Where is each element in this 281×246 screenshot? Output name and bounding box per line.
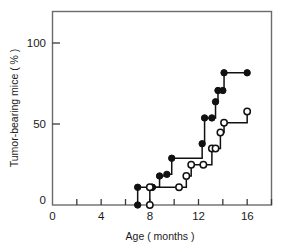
- data-point-filled-circle: [134, 202, 140, 208]
- data-point-open-circle: [188, 161, 194, 167]
- tumor-incidence-step-chart: 0 50 100 0 4 8 12 16 Age ( months ) Tumo…: [0, 0, 281, 246]
- x-tick-label-8: 8: [147, 210, 153, 222]
- y-axis-title: Tumor-bearing mice ( % ): [8, 49, 20, 168]
- y-tick-label-50: 50: [33, 118, 46, 130]
- data-point-open-circle: [183, 173, 189, 179]
- data-point-filled-circle: [134, 184, 140, 190]
- data-point-filled-circle: [156, 173, 162, 179]
- data-point-open-circle: [221, 120, 227, 126]
- data-point-filled-circle: [164, 171, 170, 177]
- data-point-filled-circle: [169, 155, 175, 161]
- data-point-filled-circle: [212, 99, 218, 105]
- data-point-open-circle: [212, 145, 218, 151]
- x-axis-title: Age ( months ): [126, 230, 195, 242]
- data-point-open-circle: [217, 129, 223, 135]
- data-point-open-circle: [176, 184, 182, 190]
- x-tick-label-0: 0: [49, 210, 55, 222]
- data-point-filled-circle: [201, 115, 207, 121]
- data-point-filled-circle: [244, 70, 250, 76]
- y-tick-label-100: 100: [27, 37, 46, 49]
- data-point-open-circle: [200, 161, 206, 167]
- x-tick-label-4: 4: [98, 210, 105, 222]
- data-point-filled-circle: [209, 115, 215, 121]
- data-point-filled-circle: [220, 87, 226, 93]
- data-point-open-circle: [147, 184, 153, 190]
- chart-figure: 0 50 100 0 4 8 12 16 Age ( months ) Tumo…: [0, 0, 281, 246]
- data-point-open-circle: [244, 108, 250, 114]
- data-point-filled-circle: [199, 141, 205, 147]
- data-point-open-circle: [147, 202, 153, 208]
- x-tick-label-16: 16: [241, 210, 254, 222]
- x-tick-label-12: 12: [192, 210, 205, 222]
- data-point-filled-circle: [221, 70, 227, 76]
- y-tick-label-0: 0: [40, 194, 46, 206]
